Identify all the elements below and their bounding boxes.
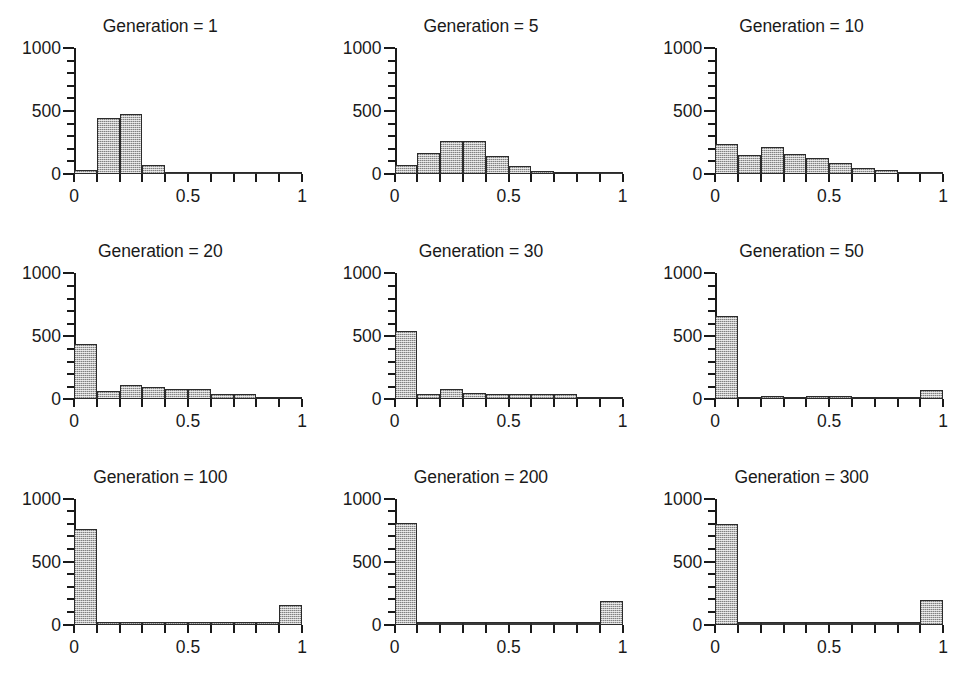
x-axis-tick bbox=[255, 625, 257, 633]
y-axis-tick-label: 500 bbox=[32, 326, 61, 347]
x-axis-tick bbox=[874, 174, 876, 182]
histogram-bar bbox=[852, 397, 875, 399]
y-axis-minor-tick bbox=[388, 573, 395, 575]
y-axis-tick-label: 500 bbox=[352, 551, 381, 572]
histogram-bar bbox=[898, 397, 921, 399]
y-axis-tick-label: 500 bbox=[352, 101, 381, 122]
histogram-bar bbox=[188, 389, 211, 399]
histogram-bar bbox=[554, 394, 577, 400]
y-axis-minor-tick bbox=[708, 535, 715, 537]
x-axis-tick bbox=[919, 625, 921, 633]
histogram-panel: Generation = 300500100000.51 bbox=[321, 225, 642, 450]
x-axis-tick bbox=[599, 625, 601, 633]
histogram-bar bbox=[806, 396, 829, 400]
x-axis-tick bbox=[301, 399, 303, 407]
histogram-bar bbox=[211, 622, 234, 624]
bar-series bbox=[395, 273, 623, 399]
x-axis-tick bbox=[164, 399, 166, 407]
x-axis-tick-label: 0 bbox=[390, 411, 400, 432]
y-axis-tick-label: 500 bbox=[352, 326, 381, 347]
x-axis-tick bbox=[805, 174, 807, 182]
x-axis-tick bbox=[141, 174, 143, 182]
histogram-bar bbox=[600, 601, 623, 624]
y-axis-minor-tick bbox=[67, 548, 74, 550]
x-axis-tick bbox=[805, 399, 807, 407]
x-axis-tick bbox=[508, 399, 510, 407]
histogram-bar bbox=[486, 622, 509, 624]
panel-title: Generation = 300 bbox=[641, 467, 962, 488]
bar-series bbox=[74, 499, 302, 625]
histogram-bar bbox=[554, 172, 577, 174]
histogram-bar bbox=[97, 118, 120, 174]
panel-title: Generation = 30 bbox=[321, 241, 642, 262]
y-axis-minor-tick bbox=[67, 310, 74, 312]
histogram-bar bbox=[142, 387, 165, 400]
y-axis-minor-tick bbox=[388, 348, 395, 350]
y-axis-tick-label: 0 bbox=[51, 389, 61, 410]
panel-title: Generation = 20 bbox=[0, 241, 321, 262]
y-axis-tick-label: 500 bbox=[673, 101, 702, 122]
y-axis-major-tick bbox=[704, 335, 715, 337]
x-axis-tick-label: 0.5 bbox=[496, 186, 520, 207]
histogram-bar bbox=[142, 622, 165, 624]
x-axis-tick bbox=[462, 174, 464, 182]
y-axis-minor-tick bbox=[388, 535, 395, 537]
x-axis-tick bbox=[874, 625, 876, 633]
x-axis-tick bbox=[737, 399, 739, 407]
y-axis-minor-tick bbox=[388, 97, 395, 99]
y-axis-minor-tick bbox=[67, 160, 74, 162]
y-axis-minor-tick bbox=[67, 510, 74, 512]
histogram-bar bbox=[211, 394, 234, 400]
histogram-bar bbox=[577, 172, 600, 174]
y-axis-minor-tick bbox=[67, 135, 74, 137]
y-axis-tick-label: 0 bbox=[51, 614, 61, 635]
histogram-bar bbox=[142, 165, 165, 174]
x-axis-tick bbox=[828, 399, 830, 407]
y-axis-tick-label: 500 bbox=[673, 326, 702, 347]
x-axis-tick bbox=[530, 399, 532, 407]
y-axis-tick-label: 1000 bbox=[663, 488, 702, 509]
y-axis-minor-tick bbox=[67, 123, 74, 125]
y-axis-major-tick bbox=[384, 272, 395, 274]
y-axis-tick-label: 1000 bbox=[663, 263, 702, 284]
x-axis-tick bbox=[439, 625, 441, 633]
plot-area: 0500100000.51 bbox=[395, 48, 623, 174]
x-axis-tick bbox=[737, 174, 739, 182]
x-axis-tick bbox=[233, 399, 235, 407]
histogram-bar bbox=[417, 394, 440, 399]
plot-area: 0500100000.51 bbox=[395, 499, 623, 625]
histogram-bar bbox=[256, 622, 279, 624]
y-axis-minor-tick bbox=[67, 348, 74, 350]
histogram-bar bbox=[165, 389, 188, 400]
histogram-bar bbox=[875, 622, 898, 624]
y-axis-minor-tick bbox=[708, 310, 715, 312]
histogram-bar bbox=[761, 396, 784, 400]
histogram-bar bbox=[486, 394, 509, 400]
plot-area: 0500100000.51 bbox=[74, 48, 302, 174]
x-axis-tick bbox=[485, 625, 487, 633]
bar-series bbox=[395, 48, 623, 174]
histogram-bar bbox=[852, 622, 875, 624]
y-axis-tick-label: 1000 bbox=[343, 38, 382, 59]
histogram-bar bbox=[279, 605, 302, 625]
y-axis-major-tick bbox=[384, 110, 395, 112]
y-axis-tick-label: 0 bbox=[51, 164, 61, 185]
x-axis-tick bbox=[187, 625, 189, 633]
bar-series bbox=[395, 499, 623, 625]
y-axis-minor-tick bbox=[388, 148, 395, 150]
panel-title: Generation = 100 bbox=[0, 467, 321, 488]
y-axis-minor-tick bbox=[388, 85, 395, 87]
panel-title: Generation = 200 bbox=[321, 467, 642, 488]
y-axis-minor-tick bbox=[67, 611, 74, 613]
y-axis-minor-tick bbox=[708, 510, 715, 512]
histogram-bar bbox=[165, 622, 188, 624]
y-axis-minor-tick bbox=[67, 361, 74, 363]
histogram-bar bbox=[256, 397, 279, 400]
y-axis-minor-tick bbox=[708, 72, 715, 74]
y-axis-minor-tick bbox=[708, 148, 715, 150]
histogram-bar bbox=[554, 622, 577, 624]
y-axis-tick-label: 500 bbox=[673, 551, 702, 572]
x-axis-tick-label: 1 bbox=[297, 411, 307, 432]
x-axis-tick bbox=[394, 174, 396, 182]
y-axis-minor-tick bbox=[388, 523, 395, 525]
